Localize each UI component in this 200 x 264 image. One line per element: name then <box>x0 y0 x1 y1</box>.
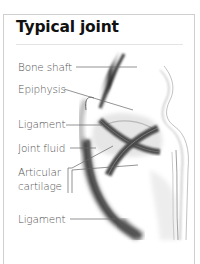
label-ligament-upper: Ligament <box>18 118 65 130</box>
leader-articular-2 <box>72 165 138 193</box>
label-ligament-lower: Ligament <box>18 213 65 225</box>
label-joint-fluid: Joint fluid <box>18 142 65 154</box>
label-articular: Articular <box>18 166 61 178</box>
label-cartilage: cartilage <box>18 180 62 192</box>
label-bone-shaft: Bone shaft <box>18 61 72 73</box>
label-epiphysis: Epiphysis <box>18 83 66 95</box>
